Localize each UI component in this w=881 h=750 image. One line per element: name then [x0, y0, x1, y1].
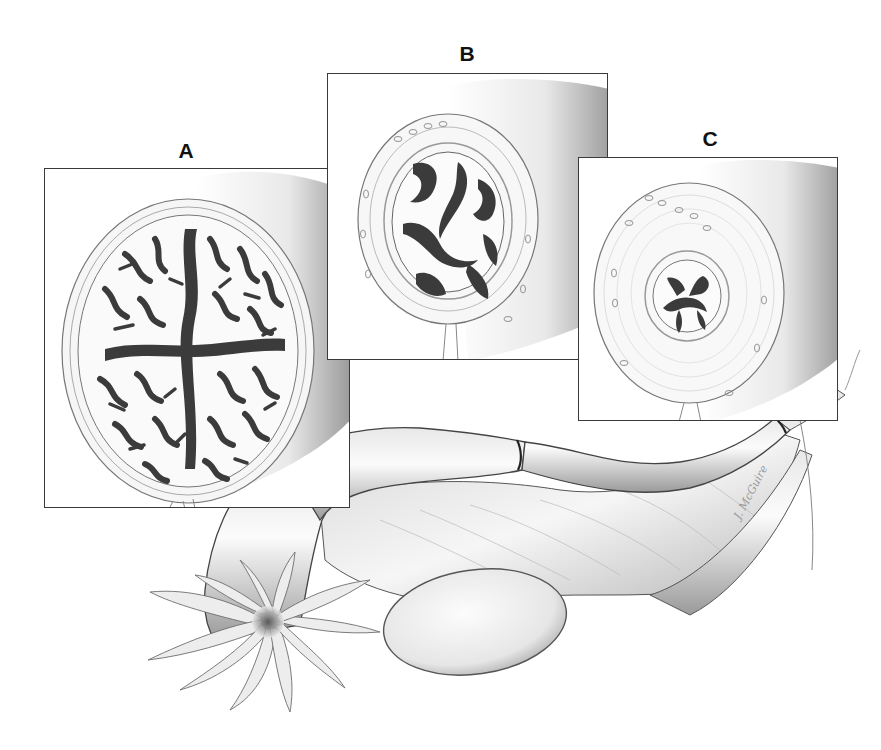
panel-b-label: B [447, 43, 487, 65]
panel-c-intramural-cross-section [578, 157, 838, 421]
panel-c-label: C [690, 128, 730, 150]
figure: J. McGuire A [0, 0, 881, 750]
panel-b-isthmus-cross-section [327, 73, 608, 360]
panel-a-ampulla-cross-section [44, 168, 350, 508]
panel-a-label: A [166, 140, 206, 162]
